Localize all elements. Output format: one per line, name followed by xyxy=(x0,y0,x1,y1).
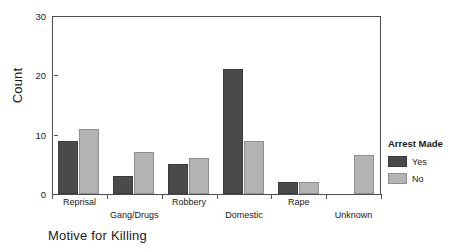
bar-reprisal-no xyxy=(79,129,99,194)
x-tick-mark xyxy=(162,194,163,199)
x-axis-label: Unknown xyxy=(335,210,373,220)
bar-gang-drugs-yes xyxy=(113,176,133,194)
y-tick-label: 20 xyxy=(8,70,46,81)
bars-layer xyxy=(52,16,381,194)
bar-rape-yes xyxy=(278,182,298,194)
legend-swatch-yes xyxy=(388,156,407,167)
x-axis-title: Motive for Killing xyxy=(48,228,147,243)
x-axis-label: Gang/Drugs xyxy=(110,210,159,220)
x-axis-label: Robbery xyxy=(172,197,206,207)
bar-rape-no xyxy=(299,182,319,194)
bar-robbery-yes xyxy=(168,164,188,194)
legend-item-yes: Yes xyxy=(388,156,450,167)
bar-domestic-yes xyxy=(223,69,243,194)
legend: Arrest Made Yes No xyxy=(388,138,450,190)
x-tick-mark xyxy=(326,194,327,199)
legend-item-no: No xyxy=(388,173,450,184)
x-tick-mark xyxy=(107,194,108,199)
legend-label-yes: Yes xyxy=(412,157,427,167)
x-axis-label: Reprisal xyxy=(63,197,96,207)
x-tick-mark xyxy=(271,194,272,199)
bar-chart: Count 0102030 ReprisalGang/DrugsRobberyD… xyxy=(0,0,450,252)
y-axis-ticks: 0102030 xyxy=(6,0,46,252)
bar-unknown-no xyxy=(354,155,374,194)
x-axis-label: Rape xyxy=(288,197,310,207)
bar-reprisal-yes xyxy=(58,141,78,194)
y-tick-label: 30 xyxy=(8,11,46,22)
legend-label-no: No xyxy=(412,174,424,184)
bar-robbery-no xyxy=(189,158,209,194)
legend-title: Arrest Made xyxy=(388,138,450,149)
x-tick-mark xyxy=(217,194,218,199)
y-tick-label: 0 xyxy=(8,189,46,200)
bar-gang-drugs-no xyxy=(134,152,154,194)
bar-domestic-no xyxy=(244,141,264,194)
x-tick-mark xyxy=(52,194,53,199)
legend-swatch-no xyxy=(388,173,407,184)
y-tick-label: 10 xyxy=(8,129,46,140)
x-tick-mark xyxy=(381,194,382,199)
x-axis-label: Domestic xyxy=(225,210,263,220)
